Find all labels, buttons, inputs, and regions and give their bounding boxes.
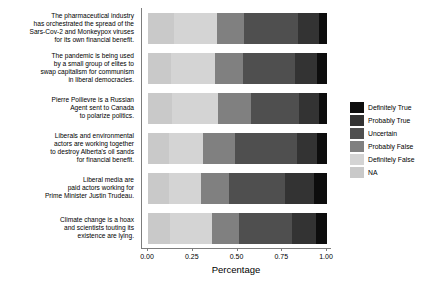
bar-segment (215, 53, 243, 84)
bar-segment (244, 13, 299, 44)
bar-segment (292, 213, 316, 244)
x-axis-tick-mark (237, 248, 238, 251)
legend-label: Definitely True (368, 104, 411, 111)
bar-row (148, 13, 327, 44)
legend-label: Probably True (368, 117, 410, 124)
legend-color-swatch (350, 102, 364, 113)
bar-segment (298, 13, 319, 44)
x-axis-tick-mark (281, 248, 282, 251)
bar-segment (319, 93, 327, 124)
bar-segment (239, 213, 292, 244)
bar-segment (218, 93, 251, 124)
y-axis-label: Climate change is a hoax and scientists … (0, 216, 134, 241)
bar-segment (174, 13, 217, 44)
legend-item[interactable]: Definitely False (350, 153, 430, 166)
x-axis-tick-mark (326, 248, 327, 251)
bar-segment (148, 53, 171, 84)
y-axis-category-labels: The pharmaceutical industry has orchestr… (0, 8, 138, 248)
bar-segment (317, 133, 327, 164)
y-axis-label: Pierre Poilievre is a Russian Agent sent… (0, 96, 134, 121)
legend-label: Probably False (368, 143, 413, 150)
bar-segment (170, 213, 212, 244)
bar-segment (169, 173, 201, 204)
bar-segment (299, 93, 319, 124)
legend-label: NA (368, 169, 377, 176)
legend-label: Uncertain (368, 130, 397, 137)
bar-segment (285, 173, 314, 204)
x-axis-tick-mark (147, 248, 148, 251)
bar-segment (295, 53, 317, 84)
bar-segment (172, 93, 218, 124)
bar-row (148, 133, 327, 164)
y-axis-label: Liberal media are paid actors working fo… (0, 176, 134, 201)
x-axis-title: Percentage (141, 264, 331, 275)
bar-row (148, 53, 327, 84)
bar-segment (297, 133, 318, 164)
legend-item[interactable]: Probably False (350, 140, 430, 153)
x-axis-tick-label: 0.75 (261, 253, 301, 260)
y-axis-label: The pharmaceutical industry has orchestr… (0, 12, 134, 45)
bar-segment (148, 173, 169, 204)
bar-segment (148, 93, 172, 124)
legend-item[interactable]: Uncertain (350, 127, 430, 140)
legend-label: Definitely False (368, 156, 414, 163)
plot-panel (141, 8, 331, 248)
bar-segment (169, 133, 202, 164)
legend: Definitely TrueProbably TrueUncertainPro… (350, 101, 430, 179)
bar-segment (317, 53, 327, 84)
stacked-bar-chart: The pharmaceutical industry has orchestr… (0, 0, 431, 289)
bar-row (148, 213, 327, 244)
bar-segment (251, 93, 299, 124)
x-axis-tick-label: 0.00 (127, 253, 167, 260)
bar-segment (243, 53, 295, 84)
bar-segment (148, 13, 174, 44)
legend-color-swatch (350, 115, 364, 126)
bar-row (148, 93, 327, 124)
legend-item[interactable]: Probably True (350, 114, 430, 127)
y-axis-label: Liberals and environmental actors are wo… (0, 132, 134, 165)
bar-segment (229, 173, 284, 204)
bar-segment (217, 13, 244, 44)
bar-segment (212, 213, 239, 244)
x-axis-tick-label: 0.50 (217, 253, 257, 260)
x-axis-tick-mark (192, 248, 193, 251)
bar-segment (316, 213, 327, 244)
bar-row (148, 173, 327, 204)
legend-color-swatch (350, 128, 364, 139)
bar-segment (148, 133, 169, 164)
legend-color-swatch (350, 141, 364, 152)
bar-segment (201, 173, 230, 204)
legend-color-swatch (350, 154, 364, 165)
bar-segment (203, 133, 235, 164)
y-axis-label: The pandemic is being used by a small gr… (0, 52, 134, 85)
legend-item[interactable]: NA (350, 166, 430, 179)
bar-segment (235, 133, 297, 164)
legend-item[interactable]: Definitely True (350, 101, 430, 114)
legend-color-swatch (350, 167, 364, 178)
bar-segment (319, 13, 327, 44)
x-axis-tick-label: 1.00 (306, 253, 346, 260)
bar-segment (171, 53, 215, 84)
bar-segment (148, 213, 170, 244)
bar-segment (314, 173, 327, 204)
x-axis-tick-label: 0.25 (172, 253, 212, 260)
